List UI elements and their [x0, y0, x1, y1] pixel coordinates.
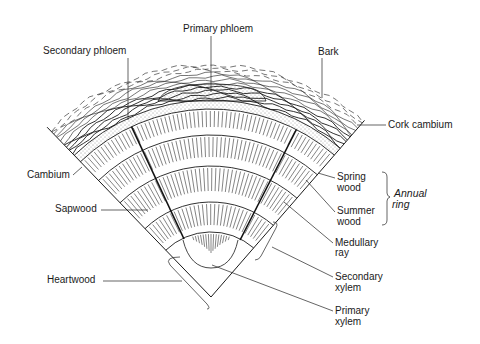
- primary-xylem-tick: [225, 236, 226, 242]
- xylem-vessel-tick: [259, 147, 266, 166]
- label-sapwood: Sapwood: [55, 203, 97, 214]
- xylem-vessel-tick: [263, 148, 270, 167]
- xylem-vessel-tick: [320, 154, 330, 166]
- xylem-vessel-tick: [194, 112, 196, 128]
- primary-xylem-tick: [206, 234, 207, 249]
- xylem-vessel-tick: [259, 119, 264, 134]
- xylem-vessel-tick: [198, 205, 201, 226]
- xylem-vessel-tick: [190, 112, 192, 128]
- xylem-vessel-tick: [184, 139, 187, 159]
- xylem-vessel-tick: [307, 144, 316, 157]
- primary-xylem-tick: [228, 237, 229, 240]
- xylem-vessel-tick: [232, 171, 237, 194]
- xylem-vessel-tick: [137, 155, 146, 173]
- medullary-ray-line: [240, 130, 296, 241]
- xylem-vessel-tick: [225, 169, 228, 192]
- xylem-vessel-tick: [91, 155, 101, 167]
- xylem-vessel-tick: [176, 141, 180, 161]
- xylem-vessel-tick: [248, 116, 252, 132]
- xylem-vessel-tick: [106, 176, 119, 191]
- xylem-vessel-tick: [266, 150, 274, 168]
- label-annual-ring-2: ring: [392, 198, 410, 210]
- xylem-vessel-tick: [165, 117, 169, 133]
- xylem-vessel-tick: [285, 161, 296, 178]
- xylem-vessel-tick: [304, 142, 313, 155]
- xylem-vessel-tick: [297, 171, 309, 187]
- xylem-vessel-tick: [202, 111, 203, 127]
- xylem-vessel-tick: [276, 155, 285, 173]
- leader-medullary-ray: [284, 202, 333, 243]
- primary-xylem-tick: [217, 235, 219, 247]
- annual-ring-arc: [166, 232, 254, 250]
- primary-xylem-tick: [215, 234, 216, 249]
- stem-cross-section-diagram: Primary phloem Secondary phloem Bark Cor…: [0, 0, 480, 344]
- xylem-vessel-tick: [192, 138, 194, 158]
- xylem-vessel-tick: [248, 176, 256, 198]
- xylem-vessel-tick: [229, 170, 233, 193]
- xylem-vessel-tick: [180, 140, 184, 160]
- xylem-vessel-tick: [231, 139, 234, 159]
- label-medullary-ray-2: ray: [335, 247, 349, 258]
- bracket-heartwood: [168, 257, 209, 309]
- xylem-vessel-tick: [238, 140, 242, 160]
- xylem-vessel-tick: [236, 210, 243, 230]
- xylem-vessel-tick: [208, 168, 209, 191]
- xylem-vessel-tick: [241, 114, 244, 130]
- xylem-vessel-tick: [126, 132, 133, 146]
- xylem-vessel-tick: [224, 138, 226, 158]
- xylem-vessel-tick: [88, 158, 99, 170]
- xylem-vessel-tick: [133, 157, 143, 175]
- xylem-vessel-tick: [214, 204, 215, 225]
- xylem-vessel-tick: [314, 149, 324, 162]
- xylem-vessel-tick: [94, 152, 104, 165]
- primary-xylem-tick: [198, 235, 200, 243]
- primary-xylem-tick: [213, 234, 214, 251]
- label-secondary-xylem-1: Secondary: [335, 271, 383, 282]
- leader-cambium: [73, 167, 82, 175]
- primary-xylem-boundary: [183, 240, 238, 268]
- xylem-vessel-tick: [167, 176, 175, 198]
- primary-xylem-tick: [220, 235, 222, 245]
- bracket-annual-ring: [382, 172, 390, 225]
- xylem-vessel-tick: [156, 147, 163, 166]
- xylem-vessel-tick: [191, 170, 195, 193]
- xylem-vessel-tick: [227, 138, 229, 158]
- leader-secondary-xylem: [272, 247, 333, 277]
- xylem-vessel-tick: [126, 161, 137, 178]
- xylem-vessel-tick: [153, 120, 158, 135]
- xylem-vessel-tick: [235, 139, 238, 159]
- xylem-vessel-tick: [237, 113, 240, 129]
- xylem-vessel-tick: [258, 181, 268, 202]
- xylem-vessel-tick: [101, 147, 110, 160]
- xylem-vessel-tick: [220, 137, 221, 157]
- xylem-vessel-tick: [294, 168, 306, 184]
- xylem-vessel-tick: [195, 169, 198, 192]
- label-primary-xylem-2: xylem: [335, 316, 361, 327]
- leader-primary-xylem: [212, 265, 333, 311]
- xylem-vessel-tick: [98, 150, 108, 163]
- xylem-vessel-tick: [194, 206, 198, 227]
- primary-xylem-tick: [208, 234, 209, 251]
- xylem-vessel-tick: [157, 119, 162, 134]
- xylem-vessel-tick: [229, 112, 231, 128]
- label-spring-wood-1: Spring: [337, 171, 366, 182]
- xylem-vessel-tick: [198, 112, 199, 128]
- xylem-vessel-tick: [104, 145, 113, 158]
- label-heartwood: Heartwood: [47, 274, 95, 285]
- xylem-vessel-tick: [252, 178, 261, 199]
- xylem-vessel-tick: [169, 116, 173, 132]
- xylem-vessel-tick: [295, 135, 303, 149]
- label-primary-phloem: Primary phloem: [183, 23, 253, 34]
- xylem-vessel-tick: [85, 160, 96, 172]
- primary-xylem-tick: [193, 237, 194, 240]
- xylem-vessel-tick: [175, 173, 182, 195]
- primary-xylem-tick: [223, 235, 225, 243]
- xylem-vessel-tick: [112, 171, 124, 187]
- leader-spring-wood: [318, 173, 335, 178]
- xylem-vessel-tick: [226, 112, 227, 128]
- xylem-vessel-tick: [111, 140, 120, 154]
- xylem-vessel-tick: [188, 139, 191, 159]
- label-secondary-phloem: Secondary phloem: [43, 45, 126, 56]
- xylem-vessel-tick: [119, 136, 127, 150]
- xylem-vessel-tick: [115, 138, 123, 152]
